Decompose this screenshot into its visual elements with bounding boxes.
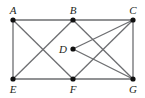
node-label-e: E — [9, 83, 17, 95]
node-label-c: C — [129, 4, 137, 16]
node-b — [70, 17, 75, 22]
graph-diagram: ABCDEFG — [0, 0, 145, 98]
nodes — [10, 17, 135, 81]
node-f — [70, 76, 75, 81]
node-label-f: F — [69, 83, 77, 95]
node-label-b: B — [70, 4, 77, 16]
node-c — [130, 17, 135, 22]
node-d — [70, 46, 75, 51]
edge-c-d — [73, 20, 133, 49]
node-label-d: D — [58, 43, 67, 55]
node-label-a: A — [9, 4, 17, 16]
node-e — [10, 76, 15, 81]
node-a — [10, 17, 15, 22]
node-label-g: G — [129, 83, 137, 95]
edge-d-g — [73, 49, 133, 79]
node-g — [130, 76, 135, 81]
